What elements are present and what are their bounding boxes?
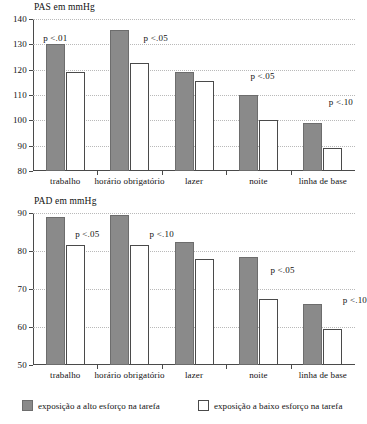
- bar-high-effort: [110, 30, 129, 171]
- x-tick-mark: [162, 365, 163, 369]
- bar-low-effort: [195, 81, 214, 171]
- y-tick-mark: [29, 327, 33, 328]
- significance-annotation: p <.10: [150, 229, 174, 239]
- chart-panel-pad: PAD em mmHg 5060708090p <.05p <.10p <.05…: [0, 196, 362, 386]
- chart-panel-pas: PAS em mmHg 8090100110120130140p <.01p <…: [0, 0, 362, 192]
- x-tick-mark: [291, 365, 292, 369]
- bar-low-effort: [323, 329, 342, 365]
- bar-low-effort: [66, 245, 85, 365]
- y-tick-mark: [29, 289, 33, 290]
- x-tick-mark: [162, 171, 163, 175]
- significance-annotation: p <.05: [144, 33, 168, 43]
- x-category-label: horário obrigatório: [95, 370, 165, 380]
- y-tick-label: 130: [13, 39, 27, 49]
- significance-annotation: p <.01: [43, 33, 67, 43]
- significance-annotation: p <.10: [343, 295, 367, 305]
- y-tick-mark: [29, 213, 33, 214]
- x-category-label: noite: [249, 370, 268, 380]
- legend-swatch-low-icon: [198, 400, 209, 411]
- y-tick-label: 80: [18, 166, 27, 176]
- x-category-label: linha de base: [299, 370, 347, 380]
- x-category-label: trabalho: [50, 370, 80, 380]
- bar-high-effort: [175, 72, 194, 171]
- x-tick-mark: [291, 171, 292, 175]
- bar-high-effort: [239, 95, 258, 171]
- bar-high-effort: [46, 217, 65, 365]
- legend-swatch-high-icon: [22, 400, 33, 411]
- x-category-label: linha de base: [299, 176, 347, 186]
- gridline: [33, 365, 355, 366]
- gridline: [33, 213, 355, 215]
- y-tick-label: 100: [13, 115, 27, 125]
- y-tick-label: 60: [18, 322, 27, 332]
- bar-high-effort: [303, 123, 322, 171]
- y-tick-mark: [29, 44, 33, 45]
- plot-area-pas: 8090100110120130140p <.01p <.05p <.05p <…: [33, 19, 355, 171]
- gridline: [33, 19, 355, 21]
- bar-low-effort: [130, 63, 149, 171]
- x-category-label: trabalho: [50, 176, 80, 186]
- bar-high-effort: [175, 242, 194, 366]
- x-tick-mark: [97, 171, 98, 175]
- y-tick-mark: [29, 19, 33, 20]
- legend-label: exposição a baixo esforço na tarefa: [214, 401, 342, 411]
- significance-annotation: p <.05: [250, 71, 274, 81]
- legend-item: exposição a alto esforço na tarefa: [22, 400, 160, 411]
- gridline: [33, 44, 355, 46]
- y-tick-label: 50: [18, 360, 27, 370]
- bar-low-effort: [259, 120, 278, 171]
- bar-low-effort: [259, 299, 278, 366]
- legend-label: exposição a alto esforço na tarefa: [38, 401, 160, 411]
- x-category-label: lazer: [185, 176, 203, 186]
- y-tick-label: 90: [18, 141, 27, 151]
- x-category-label: noite: [249, 176, 268, 186]
- y-tick-mark: [29, 365, 33, 366]
- x-tick-mark: [97, 365, 98, 369]
- y-tick-label: 120: [13, 65, 27, 75]
- bar-high-effort: [303, 304, 322, 365]
- y-tick-mark: [29, 120, 33, 121]
- x-category-label: lazer: [185, 370, 203, 380]
- gridline: [33, 171, 355, 172]
- y-tick-label: 70: [18, 284, 27, 294]
- legend-item: exposição a baixo esforço na tarefa: [198, 400, 342, 411]
- x-tick-mark: [226, 365, 227, 369]
- x-tick-mark: [226, 171, 227, 175]
- chart-title-pad: PAD em mmHg: [34, 196, 97, 206]
- y-tick-mark: [29, 171, 33, 172]
- bar-high-effort: [110, 215, 129, 365]
- plot-area-pad: 5060708090p <.05p <.10p <.05p <.10: [33, 213, 355, 365]
- bar-low-effort: [66, 72, 85, 171]
- y-tick-mark: [29, 70, 33, 71]
- significance-annotation: p <.10: [329, 97, 353, 107]
- bar-high-effort: [239, 257, 258, 365]
- y-tick-mark: [29, 95, 33, 96]
- chart-title-pas: PAS em mmHg: [34, 2, 95, 12]
- y-tick-mark: [29, 251, 33, 252]
- y-tick-label: 140: [13, 14, 27, 24]
- y-tick-label: 110: [13, 90, 27, 100]
- significance-annotation: p <.05: [75, 229, 99, 239]
- significance-annotation: p <.05: [270, 265, 294, 275]
- x-category-label: horário obrigatório: [95, 176, 165, 186]
- bar-low-effort: [195, 259, 214, 365]
- bar-high-effort: [46, 44, 65, 171]
- y-tick-label: 80: [18, 246, 27, 256]
- y-tick-mark: [29, 146, 33, 147]
- bar-low-effort: [130, 245, 149, 365]
- bar-low-effort: [323, 148, 342, 171]
- y-tick-label: 90: [18, 208, 27, 218]
